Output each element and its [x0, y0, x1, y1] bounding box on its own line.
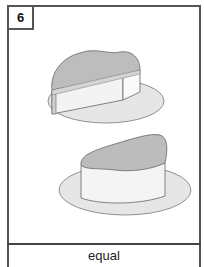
card-label: equal — [9, 246, 199, 265]
cake-slice-wedge — [48, 51, 164, 123]
frosting-bottom — [81, 135, 167, 171]
label-divider — [7, 243, 201, 245]
cake-slice-rounded — [59, 135, 191, 215]
